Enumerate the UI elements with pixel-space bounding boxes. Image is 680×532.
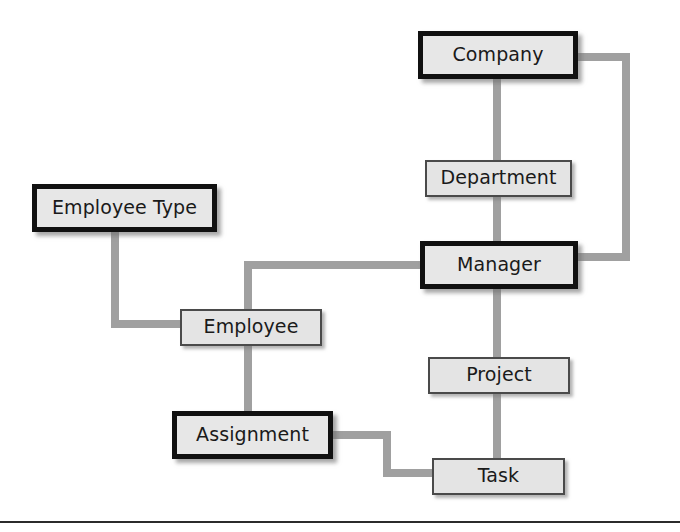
footer-divider (0, 521, 680, 523)
node-task-label: Task (472, 466, 525, 485)
node-company-label: Company (446, 45, 549, 64)
node-manager[interactable]: Manager (420, 241, 578, 289)
node-project[interactable]: Project (428, 357, 570, 394)
node-employee-type[interactable]: Employee Type (32, 184, 217, 232)
edge-employeetype-employee-segment-v (111, 230, 119, 328)
edge-employee-assignment (244, 344, 252, 414)
node-employee[interactable]: Employee (180, 309, 322, 346)
edge-company-department (493, 77, 501, 162)
edge-company-manager-segment-h-bottom (576, 253, 630, 261)
node-department[interactable]: Department (425, 160, 572, 197)
edge-project-task (493, 392, 501, 460)
edge-employeetype-employee-segment-h (111, 320, 185, 328)
node-task[interactable]: Task (432, 458, 565, 495)
edge-department-manager (493, 195, 501, 243)
edge-manager-project (493, 287, 501, 359)
node-company[interactable]: Company (418, 31, 578, 79)
node-employee-type-label: Employee Type (46, 198, 203, 217)
node-manager-label: Manager (451, 255, 547, 274)
edge-manager-employee-segment-h (244, 261, 422, 269)
edge-assignment-task-segment-h1 (331, 431, 391, 439)
node-assignment[interactable]: Assignment (172, 411, 333, 459)
node-employee-label: Employee (198, 317, 305, 336)
edge-assignment-task-segment-h2 (383, 469, 436, 477)
edge-manager-employee-segment-v (244, 261, 252, 313)
edge-company-manager-segment-v (622, 53, 630, 261)
node-assignment-label: Assignment (190, 425, 315, 444)
node-project-label: Project (460, 365, 538, 384)
node-department-label: Department (435, 168, 563, 187)
diagram-canvas: Company Department Manager Employee Type… (0, 0, 680, 532)
